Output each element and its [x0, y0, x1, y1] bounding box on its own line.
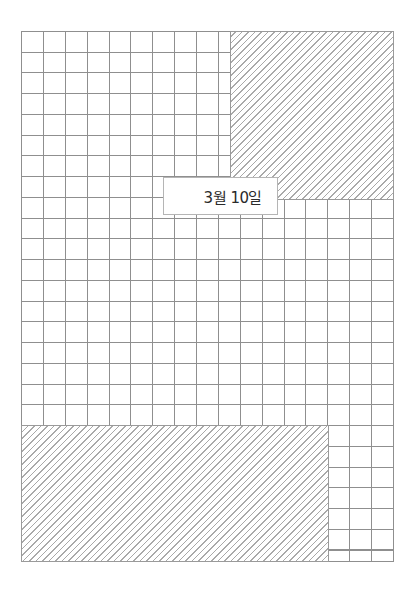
date-label-text: 3월 10일 — [204, 186, 262, 207]
date-label-box: 3월 10일 — [163, 177, 278, 215]
grid-paper-sheet: 3월 10일 — [0, 0, 418, 595]
hatched-region-top-right — [230, 31, 394, 200]
hatched-region-bottom-left — [21, 425, 329, 562]
